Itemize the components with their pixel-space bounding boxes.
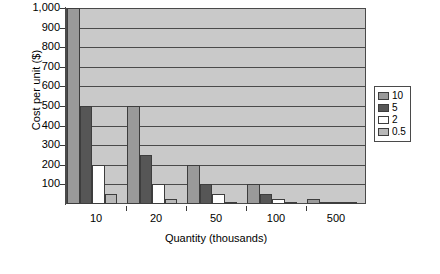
bar-group [127, 8, 177, 204]
bar-group [247, 8, 297, 204]
bar [345, 202, 358, 204]
bar-group [187, 8, 237, 204]
legend-item-label: 10 [392, 91, 403, 101]
legend-item: 2 [378, 114, 406, 126]
legend-swatch-icon [378, 104, 389, 112]
legend-item-label: 0.5 [392, 127, 406, 137]
y-axis-tick-label: 700 [12, 61, 60, 72]
bar [105, 194, 118, 204]
bar [212, 194, 225, 204]
x-axis-tick-mark [126, 206, 127, 211]
y-axis-tick-labels: 1,000900800700600500400300200100 [12, 8, 60, 204]
legend-swatch-icon [378, 128, 389, 136]
x-axis-tick-labels: 102050100500 [66, 212, 366, 228]
x-axis-tick-mark [306, 206, 307, 211]
x-axis-title: Quantity (thousands) [66, 232, 366, 244]
legend-item: 0.5 [378, 126, 406, 138]
y-axis-tick-label: 300 [12, 139, 60, 150]
bar [307, 199, 320, 204]
legend-swatch-icon [378, 92, 389, 100]
y-axis-tick-label: 1,000 [12, 2, 60, 13]
bar [165, 199, 178, 204]
bar [332, 202, 345, 204]
x-axis-tick-label: 20 [126, 212, 186, 225]
y-axis-tick-label: 600 [12, 80, 60, 91]
x-axis-tick-label: 50 [186, 212, 246, 225]
legend-item-label: 2 [392, 115, 398, 125]
x-axis-tick-mark [186, 206, 187, 211]
y-axis-tick-label: 100 [12, 178, 60, 189]
bar-group [67, 8, 117, 204]
bar [320, 202, 333, 204]
bar [187, 165, 200, 204]
bar [152, 184, 165, 204]
bar [272, 199, 285, 204]
x-axis-tick-label: 500 [306, 212, 366, 225]
x-axis-tick-mark [246, 206, 247, 211]
y-axis-tick-label: 400 [12, 120, 60, 131]
y-axis-tick-label: 500 [12, 100, 60, 111]
legend-item: 10 [378, 90, 406, 102]
bar [140, 155, 153, 204]
bar-chart-figure: Cost per unit ($) 1,00090080070060050040… [0, 0, 440, 274]
bar-series-container [66, 8, 366, 204]
bar [225, 202, 238, 204]
bar [67, 8, 80, 204]
y-axis-tick-label: 900 [12, 22, 60, 33]
legend-item: 5 [378, 102, 406, 114]
legend-item-label: 5 [392, 103, 398, 113]
x-axis-tick-label: 10 [66, 212, 126, 225]
x-axis-tick-label: 100 [246, 212, 306, 225]
bar-group [307, 8, 357, 204]
y-axis-tick-label: 800 [12, 41, 60, 52]
legend-swatch-icon [378, 116, 389, 124]
bar [80, 106, 93, 204]
bar [247, 184, 260, 204]
bar [127, 106, 140, 204]
bar [92, 165, 105, 204]
chart-legend: 10520.5 [374, 86, 411, 142]
bar [260, 194, 273, 204]
bar [285, 202, 298, 204]
bar [200, 184, 213, 204]
y-axis-tick-label: 200 [12, 159, 60, 170]
